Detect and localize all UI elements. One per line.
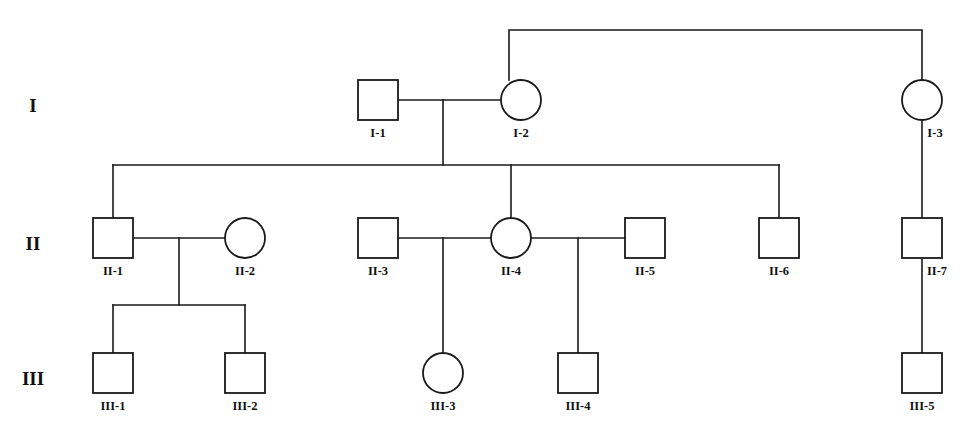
individual-label-i-1: I-1 [370,126,385,140]
generation-i-symbols: I-1 I-2 I-3 [358,80,943,140]
individual-label-iii-3: III-3 [430,399,455,413]
individual-symbol-iii-2[interactable] [225,353,265,393]
pedigree-canvas: I II III [0,0,970,426]
individual-symbol-ii-5[interactable] [625,218,665,258]
individual-symbol-ii-2[interactable] [225,218,265,258]
generation-iii-symbols: III-1 III-2 III-3 III-4 III-5 [93,353,942,413]
individual-symbol-iii-1[interactable] [93,353,133,393]
individual-label-iii-1: III-1 [100,399,125,413]
individual-symbol-i-2[interactable] [501,80,541,120]
sibship-line-generation-i [509,30,922,80]
individual-label-ii-5: II-5 [635,264,655,278]
individual-symbol-iii-4[interactable] [558,353,598,393]
individual-label-ii-6: II-6 [769,264,789,278]
individual-label-iii-4: III-4 [565,399,591,413]
generation-label-ii: II [26,233,41,254]
individual-label-ii-4: II-4 [501,264,522,278]
individual-symbol-ii-1[interactable] [93,218,133,258]
pedigree-diagram: I II III [0,0,970,426]
individual-symbol-ii-3[interactable] [358,218,398,258]
individual-symbol-iii-5[interactable] [902,353,942,393]
individual-symbol-iii-3[interactable] [423,353,463,393]
individual-label-iii-5: III-5 [909,399,934,413]
individual-label-i-3: I-3 [927,126,942,140]
individual-symbol-ii-7[interactable] [902,218,942,258]
generation-label-i: I [29,95,36,116]
individual-label-i-2: I-2 [513,126,528,140]
connector-lines [113,30,922,353]
individual-label-ii-7: II-7 [927,264,947,278]
generation-ii-symbols: II-1 II-2 II-3 II-4 II-5 II-6 II-7 [93,218,947,278]
individual-label-ii-1: II-1 [103,264,123,278]
individual-symbol-i-3[interactable] [902,80,942,120]
individual-label-iii-2: III-2 [232,399,257,413]
individual-symbol-ii-4[interactable] [491,218,531,258]
individual-label-ii-3: II-3 [368,264,388,278]
generation-label-iii: III [22,368,44,389]
individual-label-ii-2: II-2 [235,264,255,278]
individual-symbol-i-1[interactable] [358,80,398,120]
individual-symbol-ii-6[interactable] [759,218,799,258]
